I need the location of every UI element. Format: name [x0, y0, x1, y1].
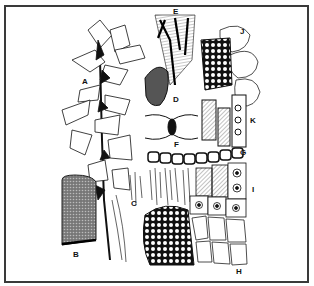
label-c: C [131, 200, 137, 208]
label-d: D [173, 96, 179, 104]
label-k: K [250, 117, 256, 125]
label-b: B [73, 251, 79, 259]
label-e: E [173, 8, 178, 16]
panel-b-capsule [62, 175, 96, 245]
panel-i-cells [190, 163, 246, 217]
panel-f-junction [145, 115, 198, 140]
botanical-plate-drawing [0, 0, 314, 286]
label-i: I [252, 186, 254, 194]
panel-k-cells [202, 95, 246, 147]
label-j: J [240, 28, 244, 36]
panel-g-cell-row [148, 148, 243, 164]
label-a: A [82, 78, 88, 86]
label-g: G [240, 149, 246, 157]
panel-j-cells [201, 26, 260, 106]
label-f: F [174, 141, 179, 149]
panel-d-leaf [145, 67, 168, 105]
label-h: H [236, 268, 242, 276]
